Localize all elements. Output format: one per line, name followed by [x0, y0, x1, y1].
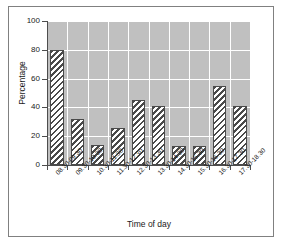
y-axis-line: [47, 21, 48, 166]
gridline-vertical: [108, 21, 109, 165]
y-axis-tick-label-text: 0: [6, 161, 40, 169]
y-axis-tick: [42, 136, 47, 137]
y-axis-tick: [42, 50, 47, 51]
y-axis-tick-label: 0: [0, 161, 40, 169]
y-axis-tick-label: 40: [0, 103, 40, 111]
y-axis-tick: [42, 79, 47, 80]
gridline-vertical: [149, 21, 150, 165]
y-axis-tick-label: 60: [0, 75, 40, 83]
y-axis-tick-label-text: 100: [6, 17, 40, 25]
y-axis-tick: [42, 107, 47, 108]
y-axis-tick-label-text: 40: [6, 103, 40, 111]
gridline-vertical: [88, 21, 89, 165]
gridline-vertical: [209, 21, 210, 165]
y-axis-tick-label: 100: [0, 17, 40, 25]
x-axis-title: Time of day: [47, 219, 251, 229]
y-axis-tick-label-text: 80: [6, 46, 40, 54]
gridline-vertical: [189, 21, 190, 165]
gridline-vertical: [230, 21, 231, 165]
gridline-vertical: [128, 21, 129, 165]
plot-area: [47, 21, 250, 165]
x-axis-tick: [47, 166, 48, 170]
bar: [50, 50, 63, 165]
y-axis-tick-label-text: 20: [6, 132, 40, 140]
chart-figure: Percentage Time of day 02040608010008.30…: [0, 0, 283, 245]
y-axis-tick-label: 20: [0, 132, 40, 140]
y-axis-tick: [42, 21, 47, 22]
y-axis-tick-label: 80: [0, 46, 40, 54]
gridline-vertical: [169, 21, 170, 165]
gridline-vertical: [67, 21, 68, 165]
y-axis-tick-label-text: 60: [6, 75, 40, 83]
